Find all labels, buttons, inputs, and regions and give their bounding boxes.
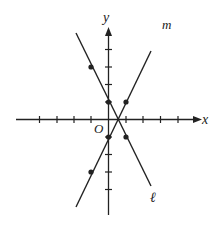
point-m-0-neg1 (106, 134, 111, 139)
point-m-neg1-neg3 (88, 169, 93, 174)
line-l (76, 33, 151, 186)
point-l-0-1 (106, 99, 111, 104)
point-m-1-1 (123, 99, 128, 104)
y-axis-label: y (101, 10, 110, 25)
point-l-1-neg1 (123, 134, 128, 139)
line-m (76, 51, 151, 207)
line-l-label: ℓ (150, 190, 156, 205)
y-axis-arrow-icon (105, 27, 112, 36)
coordinate-plane: y x O m ℓ (0, 0, 222, 225)
x-axis-label: x (201, 112, 209, 127)
line-m-label: m (162, 17, 171, 32)
origin-label: O (94, 121, 104, 136)
x-axis-arrow-icon (193, 116, 202, 123)
point-l-neg1-3 (88, 64, 93, 69)
